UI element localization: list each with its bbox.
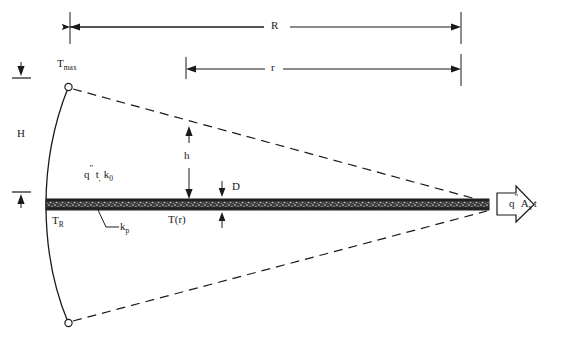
label-t-max: Tmax xyxy=(57,58,77,69)
label-out-double-prime: ″ xyxy=(515,192,518,202)
figure-canvas: R r H h D Tmax TR T(r) q″t,k0 kp q″Ast xyxy=(0,0,561,341)
label-out-time: t xyxy=(534,197,537,209)
label-comma: , xyxy=(99,174,101,183)
label-output-heat-flux: q″Ast xyxy=(509,195,537,209)
label-kp-sub: p xyxy=(126,226,130,235)
label-dimension-D: D xyxy=(232,181,240,192)
dimension-h xyxy=(185,126,192,199)
label-t-max-sub: max xyxy=(64,63,77,72)
label-out-area: A xyxy=(521,197,529,209)
label-dimension-R: R xyxy=(271,20,278,31)
label-upper-region-props: q″t,k0 xyxy=(84,166,113,180)
label-dimension-r: r xyxy=(271,62,275,73)
label-t-of-r: T(r) xyxy=(168,214,186,225)
label-out-q: q xyxy=(509,197,515,209)
label-flux-double-prime: ″ xyxy=(90,163,93,173)
label-dimension-h: h xyxy=(184,150,190,161)
label-t-r-surface: TR xyxy=(52,215,64,226)
label-dimension-H: H xyxy=(17,128,25,139)
label-flux-q: q xyxy=(84,168,90,180)
label-out-area-sub: s xyxy=(529,203,532,212)
label-kp-base: k xyxy=(120,220,126,232)
label-t-r-base: T xyxy=(52,214,59,226)
label-cond-k-sub: 0 xyxy=(109,174,113,183)
dimension-r xyxy=(186,54,461,86)
label-t-r-sub: R xyxy=(59,220,64,229)
dimension-R xyxy=(70,12,461,44)
label-plate-conductivity: kp xyxy=(120,221,129,232)
label-t-max-base: T xyxy=(57,57,64,69)
plate-body xyxy=(46,199,489,210)
leader-line-kp xyxy=(98,210,119,227)
